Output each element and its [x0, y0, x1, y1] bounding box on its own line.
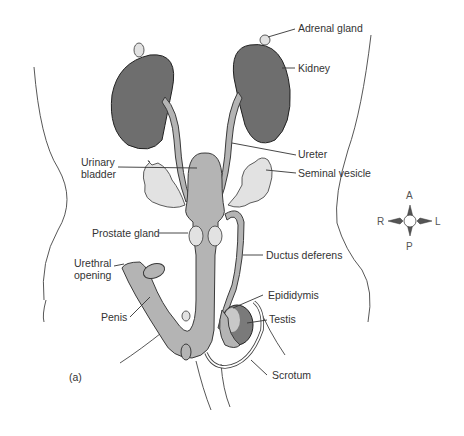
left-kidney	[233, 35, 290, 143]
label-urinary-bladder-2: bladder	[81, 168, 117, 180]
left-seminal-vesicle	[228, 158, 272, 207]
label-scrotum: Scrotum	[272, 369, 311, 381]
label-epididymis: Epididymis	[268, 289, 319, 301]
right-adrenal-gland	[134, 43, 144, 57]
male-reproductive-system-diagram: Adrenal gland Kidney Ureter Urinary blad…	[0, 0, 464, 436]
label-urethral-opening-2: opening	[74, 269, 112, 281]
panel-label: (a)	[69, 371, 82, 383]
compass-left: L	[435, 216, 441, 227]
label-urethral-opening-1: Urethral	[74, 257, 111, 269]
label-prostate-gland: Prostate gland	[92, 227, 160, 239]
label-penis: Penis	[101, 311, 127, 323]
orientation-compass: A P R L	[377, 190, 441, 252]
compass-posterior: P	[406, 241, 413, 252]
label-testis: Testis	[269, 313, 296, 325]
compass-right: R	[377, 216, 384, 227]
label-kidney: Kidney	[298, 62, 331, 74]
compass-anterior: A	[406, 190, 413, 201]
right-kidney	[111, 43, 173, 149]
prostate-gland-left	[208, 226, 222, 246]
label-ureter: Ureter	[298, 148, 328, 160]
prostate-gland-right	[189, 226, 203, 246]
label-seminal-vesicle: Seminal vesicle	[298, 167, 371, 179]
label-urinary-bladder-1: Urinary	[81, 156, 116, 168]
label-ductus-deferens: Ductus deferens	[266, 249, 342, 261]
label-adrenal-gland: Adrenal gland	[298, 22, 363, 34]
